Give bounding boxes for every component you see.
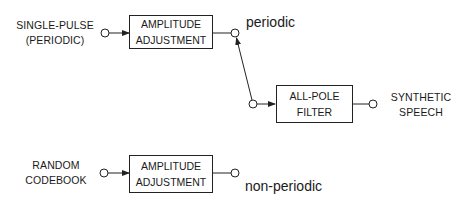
all-pole-filter-block: ALL-POLE FILTER — [276, 85, 353, 123]
periodic-source-label: SINGLE-PULSE (PERIODIC) — [14, 18, 96, 48]
random-source-label: RANDOM CODEBOOK — [24, 158, 88, 188]
periodic-input-terminal — [101, 29, 109, 37]
synthetic-speech-label: SYNTHETIC SPEECH — [388, 90, 454, 120]
filter-input-terminal — [249, 100, 257, 108]
periodic-switch-terminal — [231, 29, 239, 37]
non-periodic-switch-terminal — [231, 169, 239, 177]
random-input-terminal — [100, 169, 108, 177]
amplitude-adjustment-block-periodic: AMPLITUDE ADJUSTMENT — [129, 15, 213, 49]
non-periodic-switch-label: non-periodic — [245, 178, 322, 194]
output-terminal — [369, 100, 377, 108]
periodic-switch-label: periodic — [246, 14, 295, 30]
amplitude-adjustment-block-random: AMPLITUDE ADJUSTMENT — [129, 155, 213, 193]
